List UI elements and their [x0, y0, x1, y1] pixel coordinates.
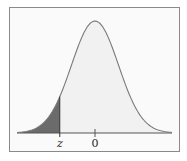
shaded-left-tail [17, 97, 60, 133]
zero-label: 0 [92, 137, 99, 150]
curve-area [17, 21, 172, 133]
z-label: z [57, 137, 63, 150]
